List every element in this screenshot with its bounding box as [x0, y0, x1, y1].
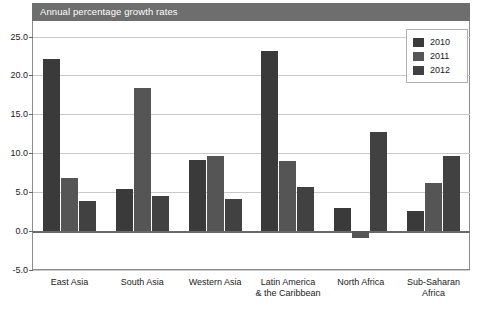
bar-2012-4: [370, 132, 387, 231]
bar-2010-4: [334, 208, 351, 231]
bar-2011-0: [61, 178, 78, 231]
x-axis-label-0: East Asia: [51, 277, 89, 288]
legend-item-2012[interactable]: 2012: [413, 63, 461, 77]
bar-2011-1: [134, 88, 151, 231]
legend-label: 2012: [430, 65, 450, 75]
y-axis-tick-label: 25.0: [0, 32, 28, 42]
bar-2012-2: [225, 199, 242, 231]
gridline: [33, 37, 470, 38]
bar-2010-0: [43, 59, 60, 231]
gridline: [33, 114, 470, 115]
x-axis-label-3: Latin America& the Caribbean: [255, 277, 320, 299]
y-axis-tick-label: -5.0: [0, 265, 28, 275]
bar-2010-2: [189, 160, 206, 231]
bar-2012-5: [443, 156, 460, 231]
y-axis-tick-mark: [29, 75, 33, 76]
bar-2011-2: [207, 156, 224, 231]
gridline: [33, 153, 470, 154]
bar-2012-3: [297, 187, 314, 231]
bar-2012-1: [152, 196, 169, 231]
x-axis-label-line: Sub-Saharan: [407, 277, 460, 288]
legend-swatch-icon: [413, 66, 424, 75]
x-axis-label-line: & the Caribbean: [255, 288, 320, 299]
bar-2010-5: [407, 211, 424, 231]
legend-label: 2011: [430, 51, 449, 61]
x-axis-label-line: Latin America: [255, 277, 320, 288]
y-axis-tick-mark: [29, 192, 33, 193]
bar-2010-1: [116, 189, 133, 231]
y-axis-tick-label: 0.0: [0, 226, 28, 236]
chart-title: Annual percentage growth rates: [32, 3, 470, 21]
bar-2011-5: [425, 183, 442, 231]
legend-swatch-icon: [413, 52, 424, 61]
x-axis-label-line: North Africa: [337, 277, 384, 288]
y-axis-tick-label: 10.0: [0, 148, 28, 158]
x-axis-label-line: South Asia: [121, 277, 164, 288]
legend-swatch-icon: [413, 38, 424, 47]
x-axis-label-4: North Africa: [337, 277, 384, 288]
legend-item-2011[interactable]: 2011: [413, 49, 461, 63]
y-axis-tick-mark: [29, 37, 33, 38]
gridline: [33, 192, 470, 193]
y-axis-tick-mark: [29, 153, 33, 154]
bar-2010-3: [261, 51, 278, 232]
chart-screenshot: { "chart_data": { "type": "bar", "title"…: [0, 0, 489, 309]
y-axis-tick-mark: [29, 270, 33, 271]
y-axis-tick-label: 20.0: [0, 70, 28, 80]
x-axis-label-line: Africa: [407, 288, 460, 299]
legend: 201020112012: [406, 29, 468, 83]
y-axis-tick-mark: [29, 231, 33, 232]
x-axis-label-line: Western Asia: [189, 277, 242, 288]
x-axis-label-5: Sub-SaharanAfrica: [407, 277, 460, 299]
y-axis-tick-label: 5.0: [0, 187, 28, 197]
bar-2011-4: [352, 231, 369, 238]
bar-2011-3: [279, 161, 296, 231]
y-axis-tick-mark: [29, 114, 33, 115]
y-axis-tick-label: 15.0: [0, 109, 28, 119]
plot-area: 25.020.015.010.05.00.0-5.0: [33, 21, 470, 270]
legend-label: 2010: [430, 37, 450, 47]
legend-item-2010[interactable]: 2010: [413, 35, 461, 49]
x-axis-label-2: Western Asia: [189, 277, 242, 288]
bar-2012-0: [79, 201, 96, 231]
gridline: [33, 270, 470, 271]
x-axis-label-line: East Asia: [51, 277, 89, 288]
gridline: [33, 75, 470, 76]
zero-line: [33, 231, 470, 233]
x-axis-label-1: South Asia: [121, 277, 164, 288]
